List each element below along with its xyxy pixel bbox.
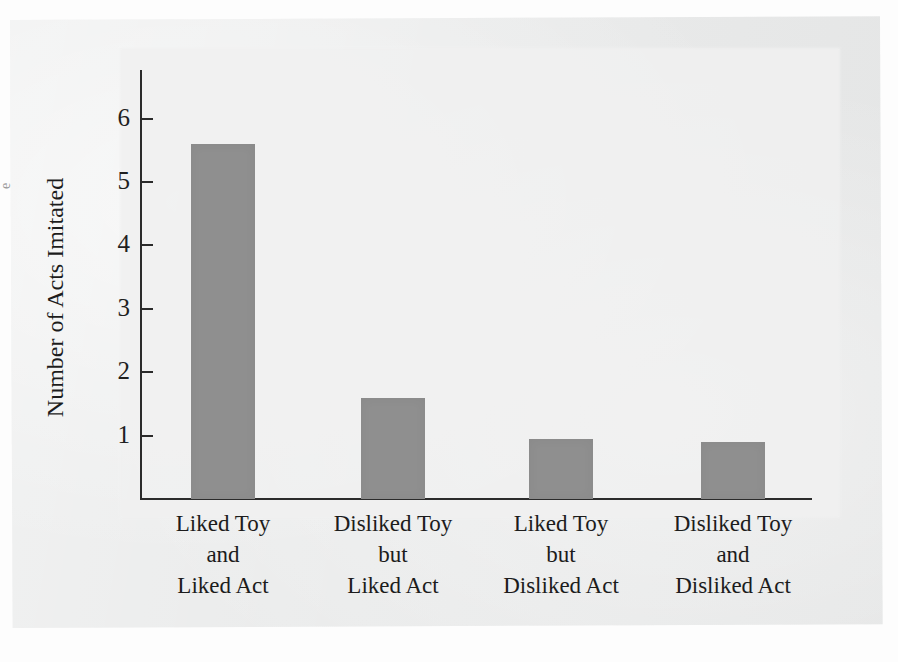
- y-tick-label-text: 1: [104, 422, 130, 447]
- y-tick-label-text: 2: [104, 358, 130, 383]
- y-tick-mark: [142, 118, 153, 120]
- figure-container: e Number of Acts Imitated 123456 Liked T…: [0, 0, 898, 662]
- bar: [701, 442, 765, 499]
- y-tick-label-text: 3: [104, 295, 130, 320]
- category-label: Disliked Toy but Liked Act: [308, 508, 478, 601]
- y-tick-label-text: 4: [104, 231, 130, 256]
- y-tick-mark: [142, 308, 153, 310]
- y-tick-mark: [142, 244, 153, 246]
- bar: [191, 144, 255, 499]
- category-label: Liked Toy and Liked Act: [138, 508, 308, 601]
- y-axis-title: Number of Acts Imitated: [42, 133, 69, 463]
- y-tick-mark: [142, 181, 153, 183]
- y-tick-label: 4: [104, 231, 130, 256]
- y-tick-label: 6: [104, 105, 130, 130]
- y-tick-label: 1: [104, 422, 130, 447]
- y-tick-label: 2: [104, 358, 130, 383]
- category-label: Liked Toy but Disliked Act: [476, 508, 646, 601]
- y-tick-label-text: 6: [104, 105, 130, 130]
- category-label: Disliked Toy and Disliked Act: [648, 508, 818, 601]
- y-tick-mark: [142, 371, 153, 373]
- y-tick-label-text: 5: [104, 168, 130, 193]
- y-tick-label: 3: [104, 295, 130, 320]
- bar: [529, 439, 593, 499]
- bar: [361, 398, 425, 499]
- y-tick-label: 5: [104, 168, 130, 193]
- bar-chart: Number of Acts Imitated 123456 Liked Toy…: [0, 0, 898, 662]
- y-tick-mark: [142, 435, 153, 437]
